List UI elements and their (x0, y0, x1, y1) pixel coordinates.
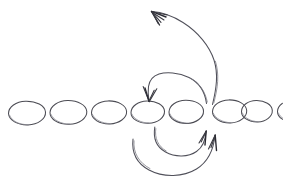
lower-arc-inner (154, 127, 206, 156)
ellipse-8 (277, 100, 283, 122)
ellipse-7 (241, 100, 272, 122)
ellipse-5 (169, 100, 204, 123)
arrowhead-up-right-inner (199, 131, 206, 145)
ellipse-4 (131, 101, 165, 123)
sketch-canvas: Hand-drawn chain of ellipses with curved… (0, 0, 283, 180)
ellipse-1 (9, 101, 46, 125)
arrowhead-down-left (143, 87, 157, 102)
diagram-drawing (0, 0, 283, 180)
arrowhead-up-left (152, 11, 168, 25)
arc-over-pointing-left (143, 73, 207, 104)
ellipse-chain (9, 100, 284, 125)
ellipse-2 (50, 101, 87, 125)
ellipse-3 (91, 101, 126, 124)
long-arrow-up-left (152, 11, 218, 104)
